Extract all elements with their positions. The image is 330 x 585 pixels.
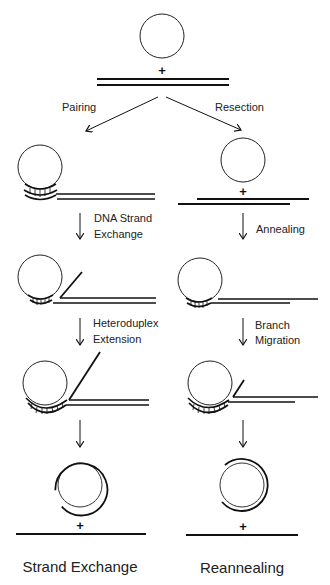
step-migration: Migration [255, 334, 300, 346]
right-resected-plus: + [239, 184, 247, 199]
start-circle [140, 14, 184, 58]
start-duplex [97, 79, 229, 85]
left-stage2-strand-exchange [18, 255, 156, 305]
left-product-circle [53, 461, 109, 517]
right-stage2-annealed [178, 258, 318, 308]
strand-exchange-title: Strand Exchange [22, 558, 137, 575]
right-stage3-branch-migration [188, 361, 318, 414]
pairing-arrow [86, 97, 158, 131]
step-exchange: Exchange [94, 228, 143, 240]
step-heteroduplex: Heteroduplex [93, 317, 159, 329]
step-dna-strand: DNA Strand [94, 212, 152, 224]
recombination-diagram: + Pairing Resection DNA Strand Exchange [0, 0, 330, 585]
step-branch: Branch [255, 319, 290, 331]
right-final-plus: + [239, 519, 247, 534]
reannealing-title: Reannealing [200, 559, 284, 576]
step-extension: Extension [93, 333, 141, 345]
pairing-label: Pairing [62, 101, 96, 113]
left-final-plus: + [76, 518, 84, 533]
left-stage3-heteroduplex-extension [23, 352, 149, 414]
left-stage1-synapsis [18, 145, 155, 200]
right-product-circle [220, 459, 268, 511]
resection-label: Resection [215, 101, 264, 113]
step-annealing: Annealing [256, 223, 305, 235]
start-plus: + [158, 63, 166, 78]
